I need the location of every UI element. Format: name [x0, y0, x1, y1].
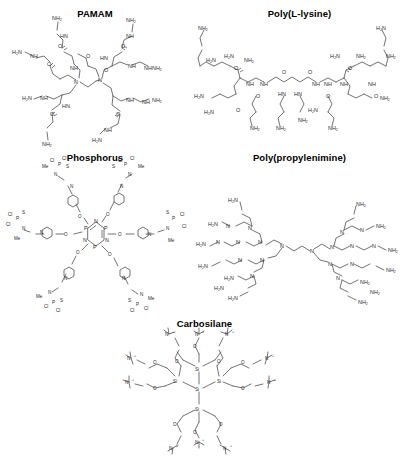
svg-text:O: O — [326, 93, 330, 99]
svg-text:NH: NH — [144, 65, 152, 71]
svg-text:+: + — [202, 438, 204, 442]
svg-text:O: O — [193, 344, 197, 349]
svg-text:+: + — [134, 354, 136, 358]
svg-text:S: S — [60, 298, 63, 303]
svg-text:Cl: Cl — [56, 308, 60, 313]
svg-text:NH2: NH2 — [356, 53, 366, 60]
svg-text:O: O — [374, 93, 378, 99]
svg-text:Me: Me — [168, 238, 175, 243]
svg-text:O: O — [234, 65, 238, 71]
svg-text:O: O — [256, 93, 260, 99]
svg-text:Cl: Cl — [118, 158, 122, 163]
svg-text:N: N — [265, 356, 268, 361]
svg-text:N: N — [195, 332, 198, 337]
svg-text:O: O — [116, 111, 120, 117]
svg-text:N: N — [372, 243, 376, 249]
svg-text:NH: NH — [40, 95, 48, 101]
svg-text:N: N — [248, 225, 252, 231]
svg-text:O: O — [282, 69, 286, 75]
svg-text:Si: Si — [195, 387, 199, 392]
svg-text:N: N — [328, 261, 332, 267]
svg-text:Si: Si — [195, 367, 199, 372]
svg-text:N: N — [98, 77, 102, 83]
svg-text:NH2: NH2 — [152, 97, 162, 104]
svg-text:P: P — [16, 216, 19, 221]
svg-text:H2N: H2N — [194, 93, 204, 100]
svg-text:H2N: H2N — [196, 241, 206, 248]
svg-text:NH2: NH2 — [328, 125, 338, 132]
svg-text:H2N: H2N — [376, 25, 386, 32]
structure-carbosilane: Si Si Si Si Si O O O O O O O O O O N+ N+… — [95, 318, 314, 460]
svg-text:N: N — [166, 226, 169, 231]
svg-text:NH2: NH2 — [198, 25, 208, 32]
svg-text:P: P — [104, 225, 108, 231]
svg-text:P: P — [58, 162, 61, 167]
svg-text:NH: NH — [30, 53, 38, 59]
svg-text:O: O — [219, 422, 223, 427]
svg-text:NH: NH — [126, 97, 134, 103]
svg-text:O: O — [236, 107, 240, 113]
svg-text:+: + — [132, 378, 134, 382]
svg-text:NH2: NH2 — [52, 15, 62, 22]
svg-text:H2N: H2N — [214, 285, 224, 292]
svg-text:NH2: NH2 — [386, 267, 396, 274]
svg-text:N: N — [165, 332, 168, 337]
svg-text:H2N: H2N — [228, 295, 238, 302]
structure-pamam: N N O O O O O O O NH HN NH HN NH NH NH N… — [0, 0, 190, 150]
svg-text:N: N — [216, 239, 220, 245]
svg-text:Cl: Cl — [62, 156, 66, 161]
svg-text:NH2: NH2 — [42, 141, 52, 148]
svg-text:O: O — [308, 69, 312, 75]
svg-text:O: O — [153, 386, 157, 391]
panel-poly-propylenimine: Poly(propylenimine) — [190, 150, 409, 320]
svg-text:N: N — [350, 261, 354, 267]
svg-text:NH: NH — [126, 33, 134, 39]
svg-text:N: N — [105, 237, 109, 243]
svg-text:N: N — [128, 172, 131, 177]
svg-text:NH2: NH2 — [126, 17, 136, 24]
svg-text:NH2: NH2 — [298, 117, 308, 124]
svg-text:P: P — [124, 162, 127, 167]
svg-text:N: N — [238, 257, 242, 263]
svg-text:O: O — [241, 386, 245, 391]
svg-text:HN: HN — [278, 91, 286, 97]
svg-text:Me: Me — [14, 236, 21, 241]
svg-text:HN: HN — [60, 33, 68, 39]
svg-text:H2N: H2N — [198, 263, 208, 270]
svg-text:O: O — [173, 422, 177, 427]
svg-text:O: O — [58, 43, 62, 49]
panel-phosphorus: Phosphorus P N P N P N — [0, 150, 190, 320]
svg-text:O: O — [106, 212, 110, 217]
svg-text:O: O — [121, 43, 125, 49]
svg-text:S: S — [112, 164, 115, 169]
svg-text:NH: NH — [324, 81, 332, 87]
svg-text:Me: Me — [138, 164, 145, 169]
svg-text:Cl: Cl — [130, 308, 134, 313]
svg-text:N: N — [48, 290, 51, 295]
svg-text:NH: NH — [246, 81, 254, 87]
svg-text:NH: NH — [340, 81, 348, 87]
svg-text:N: N — [64, 276, 67, 281]
svg-text:HN: HN — [62, 103, 70, 109]
panel-carbosilane: Carbosilane — [95, 318, 314, 460]
svg-text:NH2: NH2 — [388, 247, 398, 254]
svg-text:+: + — [172, 330, 174, 334]
svg-text:N: N — [127, 356, 130, 361]
structure-poly-l-lysine: NH NH NH NH HN HN NH NH O O O O O O O O … — [190, 0, 409, 150]
svg-text:N: N — [250, 273, 254, 279]
svg-text:Cl: Cl — [44, 304, 48, 309]
svg-text:NH: NH — [312, 81, 320, 87]
svg-text:H2N: H2N — [224, 53, 234, 60]
svg-text:H2N: H2N — [224, 275, 234, 282]
svg-text:+: + — [230, 444, 232, 448]
svg-text:O: O — [76, 250, 80, 255]
svg-text:O: O — [175, 359, 179, 364]
svg-text:Cl: Cl — [130, 156, 134, 161]
svg-text:NH2: NH2 — [358, 299, 368, 306]
svg-text:O: O — [78, 214, 82, 219]
svg-text:O: O — [47, 61, 51, 67]
svg-text:NH2: NH2 — [250, 125, 260, 132]
svg-text:H2N: H2N — [22, 95, 32, 102]
svg-text:NH: NH — [368, 81, 376, 87]
svg-text:H2N: H2N — [204, 109, 214, 116]
